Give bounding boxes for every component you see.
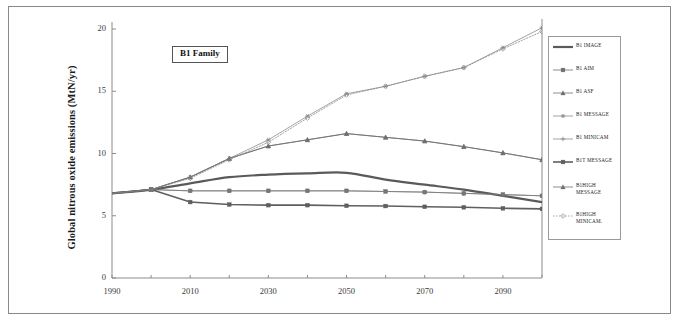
legend-swatch-icon (552, 182, 574, 192)
legend-item-label: B1HIGH MINICAM. (574, 211, 602, 224)
legend-item-b1-minicam[interactable]: B1 MINICAM (552, 134, 620, 144)
y-tick-label: 10 (84, 148, 106, 158)
legend-item-label: B1 ASF (574, 88, 593, 95)
marker-square (345, 204, 349, 208)
legend-item-b1high-message[interactable]: B1HIGH MESSAGE (552, 182, 620, 195)
marker-square (462, 205, 466, 209)
y-tick-label: 0 (84, 272, 106, 282)
series-line (112, 134, 542, 194)
marker-square (266, 203, 270, 207)
chart-legend: B1 IMAGEB1 AIMB1 ASFB1 MESSAGEB1 MINICAM… (548, 36, 621, 240)
marker-square (188, 200, 192, 204)
y-tick-label: 20 (84, 23, 106, 33)
marker-square (384, 204, 388, 208)
x-tick-label: 2050 (327, 286, 367, 296)
marker-square (561, 160, 565, 164)
legend-item-b1high-minicam-[interactable]: B1HIGH MINICAM. (552, 211, 620, 224)
legend-swatch-icon (552, 42, 574, 52)
legend-swatch-icon (552, 88, 574, 98)
x-tick-label: 2010 (170, 286, 210, 296)
x-tick-label: 2090 (483, 286, 523, 296)
legend-item-b1-image[interactable]: B1 IMAGE (552, 42, 620, 52)
legend-item-label: B1 AIM (574, 65, 594, 72)
legend-item-label: B1T MESSAGE (574, 157, 612, 164)
chart-figure: Global nitrous oxide emissions (MtN/yr) … (0, 0, 681, 325)
y-tick-label: 5 (84, 210, 106, 220)
marker-square (561, 68, 565, 72)
legend-item-b1-asf[interactable]: B1 ASF (552, 88, 620, 98)
legend-swatch-icon (552, 211, 574, 221)
marker-square (540, 207, 544, 211)
figure-page: Global nitrous oxide emissions (MtN/yr) … (0, 0, 681, 325)
legend-swatch-icon (552, 65, 574, 75)
marker-square (306, 203, 310, 207)
chart-annotation-b1-family: B1 Family (172, 46, 228, 63)
marker-square (501, 206, 505, 210)
marker-square (423, 205, 427, 209)
x-tick-label: 2070 (405, 286, 445, 296)
series-line (112, 134, 542, 194)
legend-item-label: B1 MESSAGE (574, 111, 609, 118)
legend-item-b1t-message[interactable]: B1T MESSAGE (552, 157, 620, 167)
legend-swatch-icon (552, 111, 574, 121)
legend-item-label: B1 IMAGE (574, 42, 602, 49)
x-tick-label: 1990 (92, 286, 132, 296)
legend-item-label: B1HIGH MESSAGE (574, 182, 601, 195)
x-tick-label: 2030 (248, 286, 288, 296)
series-b1high-message (112, 131, 544, 193)
legend-item-label: B1 MINICAM (574, 134, 608, 141)
y-tick-label: 15 (84, 85, 106, 95)
marker-square (227, 203, 231, 207)
legend-swatch-icon (552, 134, 574, 144)
legend-item-b1-aim[interactable]: B1 AIM (552, 65, 620, 75)
legend-swatch-icon (552, 157, 574, 167)
legend-item-b1-message[interactable]: B1 MESSAGE (552, 111, 620, 121)
series-b1-asf (112, 131, 544, 193)
y-axis-title: Global nitrous oxide emissions (MtN/yr) (66, 43, 77, 273)
